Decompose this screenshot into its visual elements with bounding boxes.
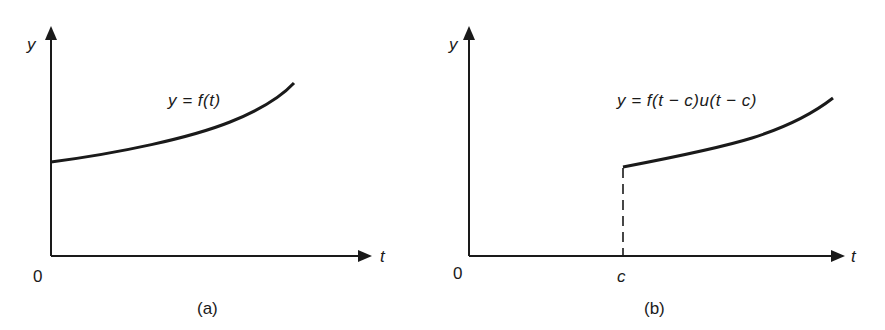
panel-a-origin-label: 0 xyxy=(33,268,42,285)
panel-b-y-axis-arrowhead-icon xyxy=(463,26,475,40)
panel-a-curve-label: y = f(t) xyxy=(168,92,221,109)
panel-b-t-axis-label: t xyxy=(851,248,856,265)
panel-b-plot xyxy=(463,26,845,262)
panel-b-t-axis-arrowhead-icon xyxy=(831,250,845,262)
panel-a-y-axis-arrowhead-icon xyxy=(45,26,57,40)
panel-a-plot xyxy=(45,26,372,262)
panel-b-shift-label: c xyxy=(617,268,626,285)
panel-b-y-axis-label: y xyxy=(449,36,458,53)
panel-a-caption: (a) xyxy=(197,300,218,317)
panel-b-origin-label: 0 xyxy=(453,265,462,282)
figure-canvas xyxy=(0,0,885,330)
panel-b-caption: (b) xyxy=(644,300,665,317)
panel-a-t-axis-label: t xyxy=(380,248,385,265)
panel-b-curve-label: y = f(t − c)u(t − c) xyxy=(617,92,757,109)
panel-a-y-axis-label: y xyxy=(27,36,36,53)
panel-a-t-axis-arrowhead-icon xyxy=(358,250,372,262)
